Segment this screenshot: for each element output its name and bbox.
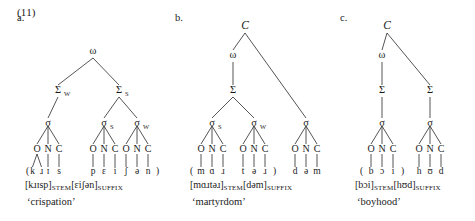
edge-sigma-coda	[48, 126, 59, 144]
segment: h	[417, 166, 422, 176]
edge-sigma-onset	[93, 126, 104, 144]
segment: m	[313, 166, 321, 176]
node-label: Σ	[230, 84, 236, 95]
segment: ə	[135, 166, 139, 176]
morph-form: [kɹɪsp]	[25, 179, 52, 190]
edge-sigma-coda	[306, 126, 317, 144]
segment: i	[114, 166, 117, 176]
morph-label: SUFFIX	[98, 184, 123, 192]
nucleus-label: N	[302, 143, 309, 154]
edge-clitic-to-omega	[233, 33, 245, 50]
coda-label: C	[220, 143, 227, 154]
segment: ɔ	[380, 166, 384, 176]
open-paren: (	[360, 166, 363, 177]
node-foot_right-a: ΣS	[116, 84, 129, 97]
edge-foot_right-to-sigma_2	[104, 97, 119, 118]
segment: k	[30, 166, 35, 176]
edge-omega-to-foot_left	[58, 58, 93, 85]
edge-clitic-to-foot_right	[387, 33, 430, 85]
panel-letter-a: a.	[17, 12, 24, 23]
edge-foot_right-to-sigma_3	[119, 97, 137, 118]
nucleus-label: N	[133, 143, 140, 154]
morph-label: STEM	[224, 184, 244, 192]
edge-sigma-onset	[419, 126, 430, 144]
gloss-c: ‘boyhood’	[357, 196, 401, 207]
onset-label: O	[239, 143, 246, 154]
segment: b	[369, 166, 374, 176]
node-label: ω	[379, 49, 386, 60]
close-paren: )	[273, 166, 276, 177]
segment: p	[91, 166, 96, 176]
figure-root: (11) a.ωΣWΣSσσSσWONCkɹɪs(ONCpɛiONCʃən)[k…	[0, 0, 475, 221]
node-foot_left-c: Σ	[379, 84, 385, 95]
onset-label: O	[33, 143, 40, 154]
node-subscript: S	[218, 123, 222, 130]
node-sigma_2-b: σW	[251, 117, 267, 130]
morph-label: STEM	[374, 184, 394, 192]
coda-label: C	[438, 143, 445, 154]
segment: i	[392, 166, 395, 176]
node-subscript: S	[110, 123, 114, 130]
node-label: ω	[90, 45, 97, 56]
morph-label: SUFFIX	[416, 184, 441, 192]
node-label: C	[241, 19, 249, 31]
node-foot_left-a: ΣW	[55, 84, 71, 97]
segment: t	[242, 166, 245, 176]
edge-foot-to-sigma_1	[212, 97, 233, 118]
onset-label: O	[122, 143, 129, 154]
segment: n	[146, 166, 151, 176]
gloss-b: ‘martyrdom’	[192, 196, 246, 207]
onset-label: O	[89, 143, 96, 154]
nucleus-label: N	[44, 143, 51, 154]
nucleus-label: N	[378, 143, 385, 154]
node-subscript: W	[143, 123, 150, 130]
onset-label: O	[415, 143, 422, 154]
edge-omega-to-foot_right	[93, 58, 119, 85]
segment: d	[439, 166, 444, 176]
segment: ɹ	[40, 166, 43, 176]
edge-foot_left-to-sigma_1	[48, 97, 58, 118]
open-paren: (	[26, 166, 29, 177]
segment: ʃ	[123, 166, 128, 176]
coda-label: C	[56, 143, 63, 154]
morph-label: STEM	[52, 184, 72, 192]
panel-letter-b: b.	[175, 12, 183, 23]
coda-label: C	[112, 143, 119, 154]
panel-letter-c: c.	[340, 12, 347, 23]
node-foot_right-c: Σ	[427, 84, 433, 95]
node-sigma_3-a: σW	[134, 117, 150, 130]
onset-label: O	[291, 143, 298, 154]
node-label: Σ	[379, 84, 385, 95]
node-label: Σ	[55, 84, 61, 95]
nucleus-label: N	[250, 143, 257, 154]
node-subscript: W	[64, 90, 71, 97]
coda-label: C	[145, 143, 152, 154]
tree-canvas: a.ωΣWΣSσσSσWONCkɹɪs(ONCpɛiONCʃən)[kɹɪsp]…	[0, 0, 475, 221]
nucleus-label: N	[100, 143, 107, 154]
edge-sigma-onset	[126, 126, 137, 144]
node-label: ω	[230, 49, 237, 60]
node-label: C	[383, 19, 391, 31]
segment: ʊ	[427, 166, 432, 176]
segment: d	[293, 166, 298, 176]
edge-sigma-coda	[382, 126, 393, 144]
node-subscript: S	[125, 90, 129, 97]
morph-form: [ɛiʃən]	[71, 179, 97, 190]
edge-sigma-onset	[295, 126, 306, 144]
nucleus-label: N	[426, 143, 433, 154]
coda-label: C	[314, 143, 321, 154]
segment: m	[197, 166, 205, 176]
edge-sigma-onset	[371, 126, 382, 144]
segment: ɹ	[221, 166, 224, 176]
edge-clitic-to-sigma_3	[245, 33, 306, 118]
node-label: Σ	[427, 84, 433, 95]
morphology-line-c: [bɔi]STEM[hʊd]SUFFIX	[355, 179, 441, 192]
coda-label: C	[390, 143, 397, 154]
segment: ɹ	[263, 166, 266, 176]
close-paren: )	[156, 166, 159, 177]
coda-label: C	[262, 143, 269, 154]
morphology-line-a: [kɹɪsp]STEM[ɛiʃən]SUFFIX	[25, 179, 123, 192]
segment: ɑ	[210, 166, 215, 176]
edge-sigma-coda	[430, 126, 441, 144]
onset-label: O	[367, 143, 374, 154]
